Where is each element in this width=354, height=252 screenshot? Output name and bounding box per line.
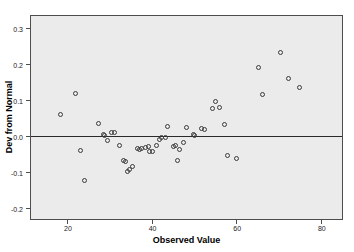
data-point xyxy=(234,156,239,161)
data-point xyxy=(105,138,110,143)
x-tick: 80 xyxy=(321,219,322,224)
zero-reference-line xyxy=(31,136,342,137)
plot-area: 0.30.20.10.0-0.1-0.2 20406080 xyxy=(30,15,343,220)
y-axis-title: Dev from Normal xyxy=(5,81,14,154)
data-point xyxy=(78,148,83,153)
x-tick-label: 80 xyxy=(318,225,326,232)
data-point xyxy=(165,124,170,129)
y-tick: 0.0 xyxy=(26,136,31,137)
data-point xyxy=(260,92,265,97)
data-point xyxy=(150,149,155,154)
y-tick: 0.3 xyxy=(26,28,31,29)
x-tick: 40 xyxy=(152,219,153,224)
data-point xyxy=(286,76,291,81)
data-point xyxy=(73,91,78,96)
data-point xyxy=(117,143,122,148)
y-tick-label: 0.2 xyxy=(13,61,23,68)
scatter-chart: 0.30.20.10.0-0.1-0.2 20406080 Observed V… xyxy=(0,0,354,252)
x-axis-title: Observed Value xyxy=(30,236,343,245)
data-point xyxy=(175,158,180,163)
data-point xyxy=(225,153,230,158)
x-tick-label: 60 xyxy=(233,225,241,232)
data-point xyxy=(184,125,189,130)
y-tick: 0.2 xyxy=(26,64,31,65)
y-tick-label: -0.1 xyxy=(11,169,23,176)
y-tick-label: 0.3 xyxy=(13,25,23,32)
x-tick: 20 xyxy=(67,219,68,224)
data-point xyxy=(112,130,117,135)
y-tick-label: -0.2 xyxy=(11,205,23,212)
data-point xyxy=(146,144,151,149)
y-tick-label: 0.0 xyxy=(13,133,23,140)
data-point xyxy=(82,178,87,183)
x-tick-label: 40 xyxy=(149,225,157,232)
data-point xyxy=(256,65,261,70)
data-point xyxy=(297,85,302,90)
data-point xyxy=(222,122,227,127)
data-point xyxy=(213,99,218,104)
data-point xyxy=(210,106,215,111)
y-tick-label: 0.1 xyxy=(13,97,23,104)
data-point xyxy=(217,105,222,110)
data-point xyxy=(154,143,159,148)
data-point xyxy=(181,140,186,145)
data-point xyxy=(163,135,168,140)
data-point xyxy=(123,159,128,164)
data-point xyxy=(177,147,182,152)
x-tick: 60 xyxy=(236,219,237,224)
y-tick: 0.1 xyxy=(26,100,31,101)
data-point xyxy=(130,164,135,169)
x-tick-label: 20 xyxy=(64,225,72,232)
data-point xyxy=(58,112,63,117)
y-tick: -0.1 xyxy=(26,172,31,173)
data-point xyxy=(96,121,101,126)
y-tick: -0.2 xyxy=(26,208,31,209)
data-point xyxy=(278,50,283,55)
data-point xyxy=(202,127,207,132)
data-point xyxy=(192,133,197,138)
